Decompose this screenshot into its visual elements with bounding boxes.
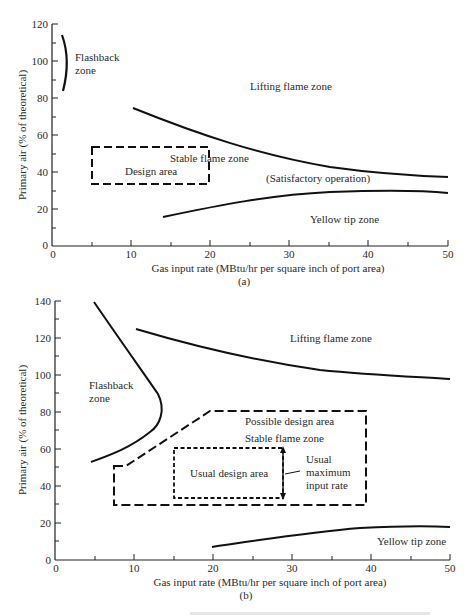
x-axis-label-b: Gas input rate (MBtu/hr per square inch … [153,576,386,589]
usual-label-b: Usual design area [190,467,268,479]
y-ticks-b [55,319,61,541]
figure: 0 20 40 60 80 100 120 0 10 20 30 40 50 P… [0,0,470,616]
y-tick-labels-b: 0 20 40 60 80 100 120 140 [35,295,52,566]
svg-text:20: 20 [40,517,52,529]
y-axis-label-a: Primary air (% of theoretical) [16,70,29,200]
svg-text:100: 100 [35,369,52,381]
yellow-label-a: Yellow tip zone [310,213,379,225]
stable-label-b: Stable flame zone [245,432,324,444]
svg-text:40: 40 [363,248,375,260]
x-tick-labels-a: 0 10 20 30 40 50 [50,248,454,260]
usual-max-label-1: Usual [306,453,332,465]
satisfactory-label-a: (Satisfactory operation) [266,172,370,185]
x-ticks-a [92,240,408,246]
svg-text:40: 40 [366,562,378,574]
design-label-a: Design area [125,165,177,177]
svg-text:80: 80 [40,406,52,418]
svg-text:0: 0 [50,248,56,260]
possible-label-b: Possible design area [245,415,334,427]
svg-text:10: 10 [126,248,138,260]
lifting-label-b: Lifting flame zone [290,332,372,344]
svg-text:20: 20 [37,203,49,215]
svg-text:50: 50 [445,562,457,574]
svg-text:120: 120 [35,332,52,344]
svg-text:50: 50 [443,248,455,260]
svg-text:20: 20 [205,248,217,260]
lifting-label-a: Lifting flame zone [250,80,332,92]
usual-max-arrow [280,446,300,500]
x-axis-label-a: Gas input rate (MBtu/hr per square inch … [151,262,384,275]
svg-text:100: 100 [32,55,49,67]
svg-text:30: 30 [287,562,299,574]
svg-text:10: 10 [129,562,141,574]
y-axis-label-b: Primary air (% of theoretical) [16,365,29,495]
flashback-label-a-1: Flashback [75,51,120,63]
chart-a: 0 20 40 60 80 100 120 0 10 20 30 40 50 P… [16,18,454,288]
svg-text:30: 30 [284,248,296,260]
yellow-label-b: Yellow tip zone [377,535,446,547]
flashback-label-b-1: Flashback [89,379,134,391]
footer-caption-fragment [190,612,430,615]
svg-text:0: 0 [46,554,52,566]
svg-text:0: 0 [53,562,59,574]
svg-text:0: 0 [43,239,49,251]
usual-max-label-2: maximum [306,466,351,478]
y-tick-labels-a: 0 20 40 60 80 100 120 [32,18,49,251]
svg-text:80: 80 [37,92,49,104]
y-ticks-a [52,43,58,228]
chart-b: 0 20 40 60 80 100 120 140 0 10 20 30 40 … [16,295,456,602]
x-ticks-b [95,554,411,560]
caption-a: (a) [238,275,251,288]
svg-text:40: 40 [40,480,52,492]
usual-max-label-3: input rate [306,479,348,491]
yellow-tip-curve-a [163,191,448,217]
svg-text:140: 140 [35,295,52,307]
svg-text:120: 120 [32,18,49,30]
caption-b: (b) [240,589,253,602]
svg-text:40: 40 [37,166,49,178]
lifting-curve-a [133,108,448,177]
svg-text:60: 60 [40,443,52,455]
svg-text:60: 60 [37,129,49,141]
x-tick-labels-b: 0 10 20 30 40 50 [53,562,456,574]
flashback-label-b-2: zone [89,392,110,404]
stable-label-a: Stable flame zone [170,152,249,164]
flashback-curve-a [62,35,67,91]
svg-text:20: 20 [208,562,220,574]
flashback-label-a-2: zone [75,64,96,76]
